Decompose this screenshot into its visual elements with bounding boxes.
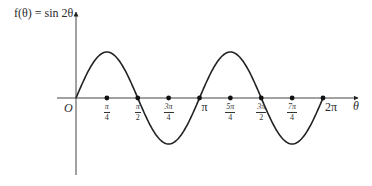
x-tick-label: 3π2 xyxy=(256,103,266,122)
y-axis-label: f(θ) = sin 2θ xyxy=(14,6,73,21)
tick-point xyxy=(228,96,233,101)
x-tick-label: 3π4 xyxy=(164,103,174,122)
sine-chart xyxy=(0,0,372,186)
tick-point xyxy=(166,96,171,101)
x-tick-label: 2π xyxy=(325,100,337,115)
x-tick-label: 5π4 xyxy=(225,103,235,122)
tick-point xyxy=(290,96,295,101)
tick-point xyxy=(135,96,140,101)
x-tick-label: π2 xyxy=(135,103,141,122)
x-tick-label: π4 xyxy=(104,103,110,122)
x-tick-label: 7π4 xyxy=(287,103,297,122)
x-tick-label: π xyxy=(202,100,208,115)
tick-point xyxy=(104,96,109,101)
tick-point xyxy=(259,96,264,101)
x-axis-label: θ xyxy=(353,99,359,114)
origin-label: O xyxy=(64,101,73,116)
